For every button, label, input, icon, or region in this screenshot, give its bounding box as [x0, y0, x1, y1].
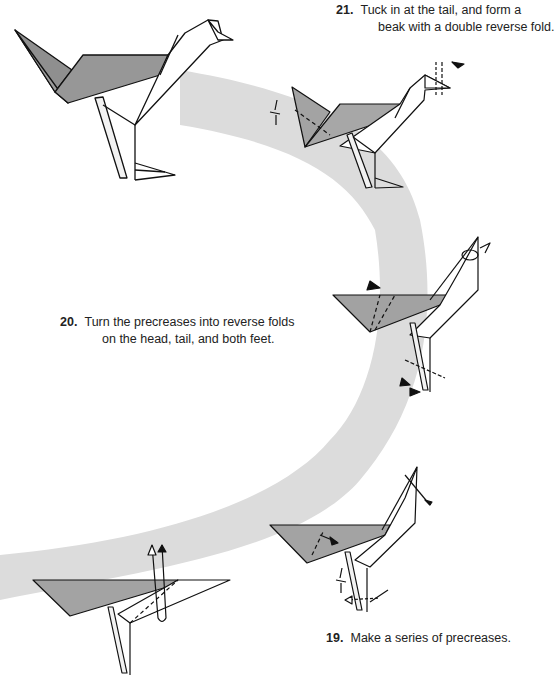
step-text-line1: Make a series of precreases. [350, 631, 511, 645]
step-21-caption: 21. Tuck in at the tail, and form a beak… [357, 2, 556, 36]
step-20-caption: 20. Turn the precreases into reverse fol… [81, 314, 321, 348]
step-19-caption: 19. Make a series of precreases. [347, 630, 556, 647]
step-text-line1: Turn the precreases into reverse folds [84, 315, 294, 329]
step-text-line2: on the head, tail, and both feet. [81, 331, 321, 348]
step-text-line2: beak with a double reverse fold. [357, 19, 556, 36]
step-text-line1: Tuck in at the tail, and form a [360, 3, 521, 17]
